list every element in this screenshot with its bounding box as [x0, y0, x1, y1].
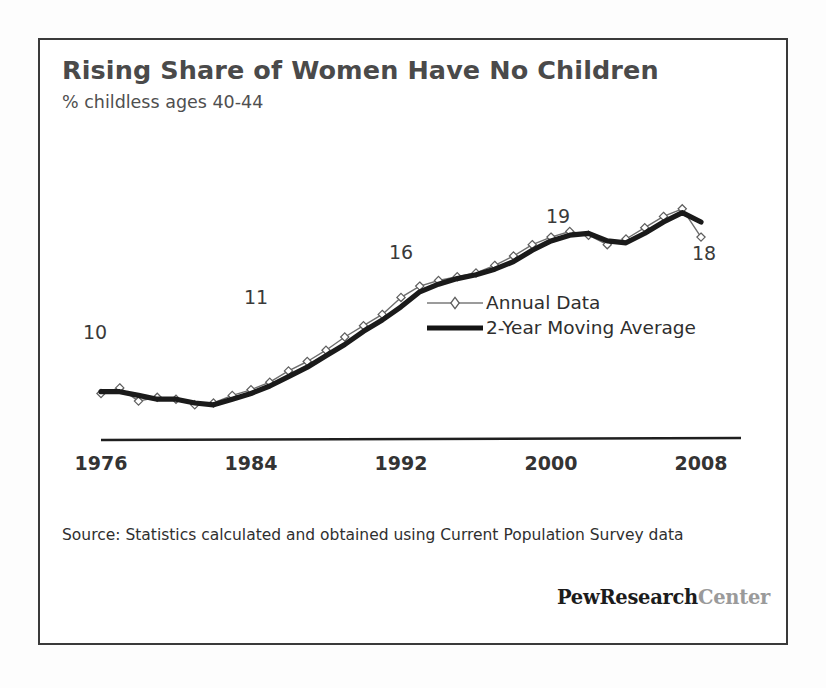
x-axis-line: [101, 438, 741, 440]
legend-swatch-moving-average: [426, 319, 484, 337]
chart-frame: Rising Share of Women Have No Children %…: [38, 38, 788, 645]
x-tick-1984: 1984: [216, 452, 286, 474]
source-note: Source: Statistics calculated and obtain…: [62, 524, 722, 546]
axis-layer: [101, 438, 741, 440]
figure-root: Rising Share of Women Have No Children %…: [0, 0, 826, 688]
brand-logo: PewResearchCenter: [480, 586, 770, 609]
annotation-11: 11: [244, 286, 268, 308]
legend-label-annual-data: Annual Data: [486, 292, 600, 313]
brand-name-secondary: Center: [698, 586, 770, 609]
x-tick-2000: 2000: [516, 452, 586, 474]
legend-item-moving-average: 2-Year Moving Average: [426, 315, 756, 340]
legend-swatch-annual-data: [426, 294, 484, 312]
data-marker: [697, 233, 705, 241]
annotation-19: 19: [546, 205, 570, 227]
annotation-16: 16: [389, 241, 413, 263]
x-tick-1992: 1992: [366, 452, 436, 474]
brand-name-primary: PewResearch: [557, 586, 698, 609]
x-tick-1976: 1976: [66, 452, 136, 474]
legend-item-annual-data: Annual Data: [426, 290, 756, 315]
plot-area: 1976 1984 1992 2000 2008 10 11 16 19 18: [40, 40, 786, 643]
chart-legend: Annual Data 2-Year Moving Average: [426, 290, 756, 340]
annotation-18: 18: [692, 242, 716, 264]
annotation-10: 10: [83, 321, 107, 343]
x-tick-2008: 2008: [666, 452, 736, 474]
line-chart-svg: [40, 40, 786, 643]
legend-label-moving-average: 2-Year Moving Average: [486, 317, 696, 338]
